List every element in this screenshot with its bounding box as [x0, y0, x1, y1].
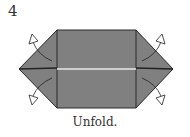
left-flap-edge — [19, 68, 57, 69]
instruction-caption: Unfold. — [0, 115, 190, 129]
right-flap-edge — [136, 68, 173, 69]
